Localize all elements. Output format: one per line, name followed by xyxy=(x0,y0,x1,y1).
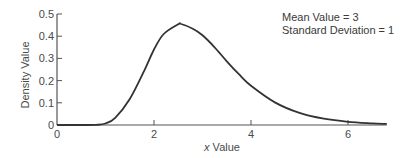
annotation-std-dev: Standard Deviation = 1 xyxy=(282,24,394,37)
y-tick-label: 0.2 xyxy=(39,75,54,87)
x-tick-label: 0 xyxy=(54,128,60,140)
x-tick-label: 4 xyxy=(248,128,254,140)
y-tick-label: 0.3 xyxy=(39,52,54,64)
x-tick-label: 2 xyxy=(151,128,157,140)
annotation-mean: Mean Value = 3 xyxy=(282,11,359,24)
x-axis-label: x Value xyxy=(203,141,240,153)
x-tick-label: 6 xyxy=(345,128,351,140)
density-curve xyxy=(57,23,387,125)
y-tick-label: 0.5 xyxy=(39,8,54,20)
y-tick-label: 0.4 xyxy=(39,30,54,42)
y-tick-label: 0.1 xyxy=(39,97,54,109)
y-axis-label: Density Value xyxy=(19,41,31,108)
